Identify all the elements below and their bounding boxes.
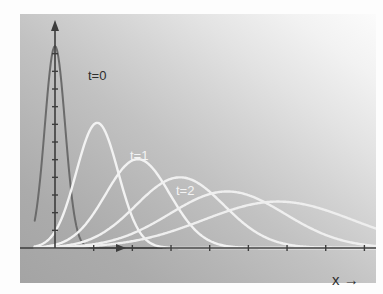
x-axis-arrowhead bbox=[116, 244, 126, 252]
y-axis-arrowhead bbox=[51, 20, 59, 31]
plot-area: t=0 t=1 t=2 x → bbox=[20, 14, 376, 283]
curves-group bbox=[35, 46, 376, 248]
curve-label-t0: t=0 bbox=[88, 69, 106, 82]
diffusion-plot-figure: t=0 t=1 t=2 x → bbox=[0, 0, 383, 294]
curve-label-t2: t=2 bbox=[176, 184, 194, 197]
x-axis-label: x → bbox=[332, 272, 359, 287]
plot-canvas bbox=[20, 14, 376, 283]
axes-group bbox=[20, 20, 376, 252]
curve-t0 bbox=[35, 46, 376, 248]
curve-t1 bbox=[35, 123, 376, 248]
curve-label-t1: t=1 bbox=[130, 149, 148, 162]
